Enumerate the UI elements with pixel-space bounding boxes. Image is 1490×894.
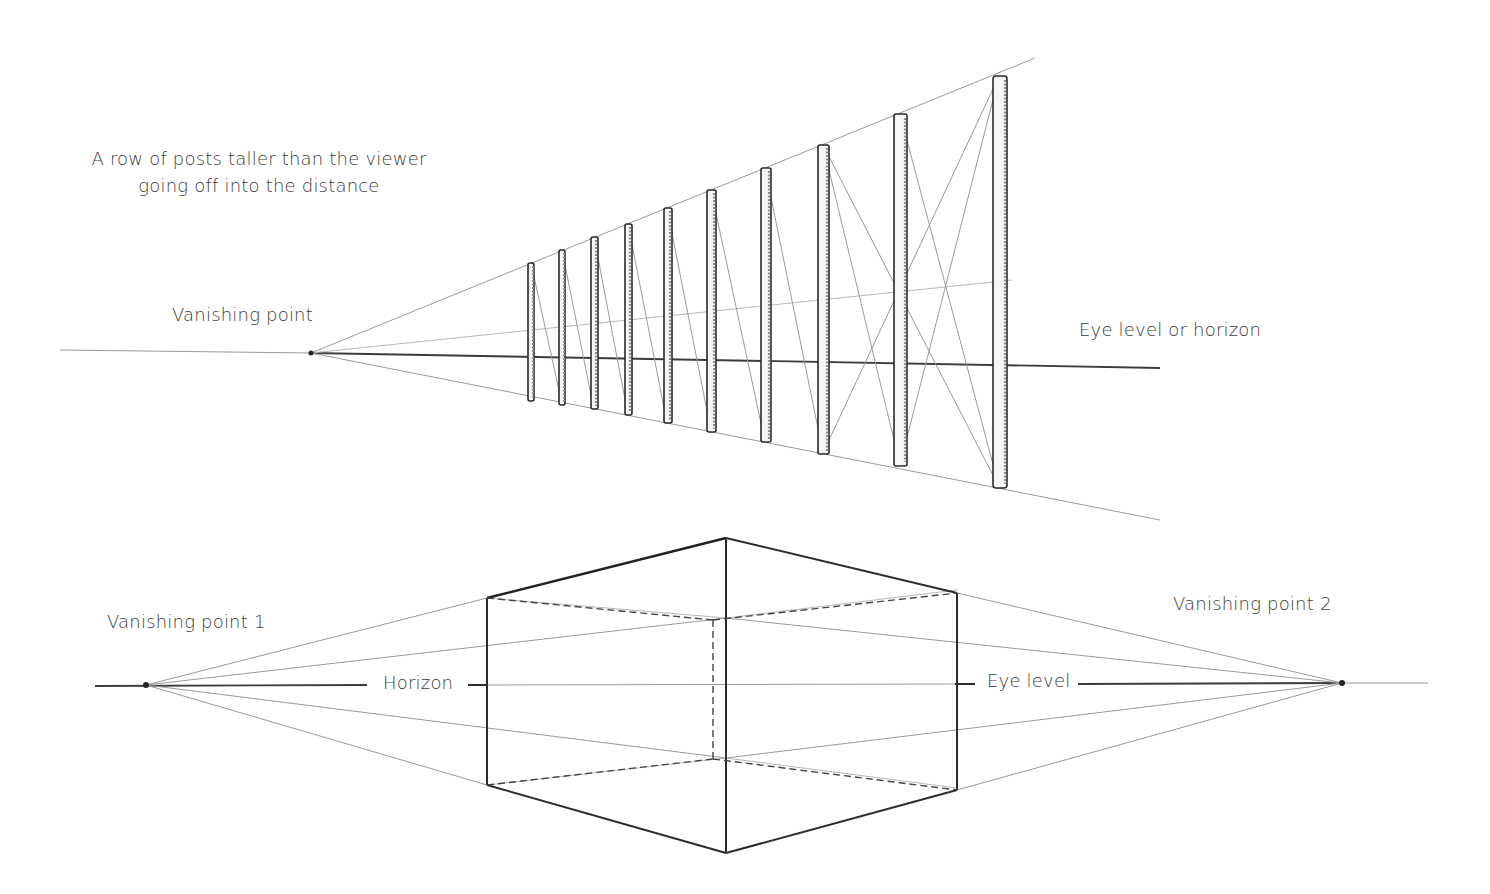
- vanishing-point-2-dot: [1339, 680, 1345, 686]
- vanishing-point-1-label: Vanishing point 1: [107, 610, 266, 633]
- vanishing-point-label: Vanishing point: [172, 303, 313, 326]
- eye-level-label: Eye level: [987, 669, 1070, 692]
- two-point-perspective-figure: [95, 538, 1428, 853]
- cube-hidden-bottom-left: [487, 759, 713, 785]
- vanishing-point-2-label: Vanishing point 2: [1173, 592, 1332, 615]
- vp2-guide-lines: [487, 593, 1342, 790]
- top-convergence-line: [311, 58, 1035, 353]
- cube-top-right-edge: [726, 538, 957, 593]
- eye-level-or-horizon-label: Eye level or horizon: [1079, 318, 1261, 341]
- horizon-line-mid: [468, 684, 966, 685]
- top-figure-caption: A row of posts taller than the viewer go…: [86, 145, 432, 199]
- bottom-convergence-line: [311, 353, 1160, 520]
- horizon-line-right: [1078, 683, 1342, 684]
- cube-hidden-bottom-right: [713, 759, 957, 790]
- horizon-line: [311, 353, 1160, 368]
- one-point-perspective-figure: [60, 58, 1160, 520]
- cube-hidden-top-left: [487, 598, 713, 620]
- posts: [528, 76, 1007, 488]
- cube-bottom-right-edge: [726, 790, 957, 853]
- horizon-label: Horizon: [383, 671, 453, 694]
- cube-bottom-left-edge: [487, 785, 726, 853]
- cube-top-left-edge: [487, 538, 726, 598]
- cube-hidden-top-right: [713, 593, 957, 620]
- perspective-diagram: [0, 0, 1490, 894]
- horizon-line-left: [95, 685, 367, 686]
- horizon-line-left-guide: [60, 350, 311, 353]
- cube: [487, 538, 957, 853]
- vanishing-point-dot: [309, 351, 314, 356]
- vanishing-point-1-dot: [143, 682, 149, 688]
- vp1-guide-lines: [146, 590, 957, 788]
- caption-line-2: going off into the distance: [86, 172, 432, 199]
- caption-line-1: A row of posts taller than the viewer: [86, 145, 432, 172]
